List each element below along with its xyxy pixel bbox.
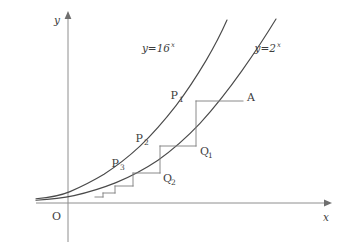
curve-2x-exponent: x: [277, 41, 281, 49]
curve-16x-label: y=16: [141, 42, 170, 54]
point-label-p1: P: [171, 89, 179, 102]
point-sub-p2: 2: [144, 138, 149, 147]
point-sub-q2: 2: [171, 178, 176, 187]
point-label-p3: P: [112, 157, 120, 170]
curve-16x-exponent: x: [171, 41, 175, 49]
x-axis-arrowhead: [324, 200, 332, 207]
curve-2x-label: y=2: [254, 42, 277, 54]
point-sub-p3: 3: [120, 163, 125, 172]
y-axis-label: y: [53, 14, 61, 26]
point-sub-q1: 1: [208, 151, 213, 160]
y-axis-arrowhead: [65, 11, 72, 19]
x-axis-label: x: [323, 211, 329, 223]
point-sub-p1: 1: [179, 95, 184, 104]
figure-container: y=16 x y=2 x P 1 A Q 1 P 2 Q 2 P 3 y x O: [0, 0, 354, 252]
point-label-p2: P: [136, 132, 144, 145]
exponential-curves-diagram: y=16 x y=2 x P 1 A Q 1 P 2 Q 2 P 3 y x O: [0, 0, 354, 252]
curve-16x: [36, 20, 227, 199]
point-label-a: A: [246, 91, 256, 104]
origin-label: O: [52, 210, 61, 223]
